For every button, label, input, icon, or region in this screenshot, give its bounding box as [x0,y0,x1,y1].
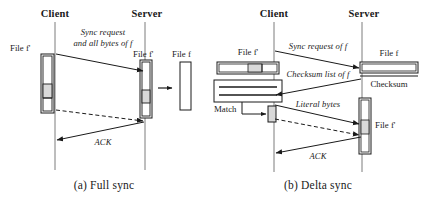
server-file-bar [360,62,418,76]
client-role-label: Client [41,9,70,20]
server-file-new-label: File f' [375,121,395,130]
msg-sync-request-label-line1: Sync request [81,28,126,37]
server-file-old-label: File f' [133,50,153,59]
client-file-block [41,54,54,113]
client-file-bar [217,62,279,74]
msg-checksum-list-label: Checksum list of f [286,70,349,79]
server-role-label: Server [132,9,163,20]
match-connector [242,102,276,122]
server-file-label: File f [380,49,399,58]
match-label: Match [214,105,236,114]
checksum-list-box [214,80,282,102]
msg-data-dashed-arrow [56,110,143,121]
server-checksum-label: Checksum [370,80,407,89]
panel-full-sync: Client Server File f' File f' File f Syn… [0,0,212,206]
server-role-label: Server [349,9,380,20]
panel-b-caption: (b) Delta sync [284,180,352,192]
panel-delta-sync: Client Server File f' Match File f Check… [212,0,424,206]
server-file-new-block [180,62,191,110]
msg-ack-label: ACK [94,138,111,147]
msg-ack-label: ACK [309,152,326,161]
msg-literal-bytes-label: Literal bytes [296,100,341,109]
msg-sync-request-arrow [56,54,143,71]
msg-sync-request-arrow [275,51,359,68]
server-file-new-block [359,98,371,154]
msg-sync-request-label-line2: and all bytes of f [73,39,132,48]
msg-checksum-list-arrow [276,79,361,95]
msg-sync-request-label: Sync request of f [289,42,347,51]
server-file-old-block [140,60,152,118]
server-file-new-label: File f [172,50,191,59]
client-role-label: Client [260,9,289,20]
panel-a-caption: (a) Full sync [74,180,135,192]
client-file-label: File f' [238,48,258,57]
figure-root: Client Server File f' File f' File f Syn… [0,0,424,206]
client-file-label: File f' [10,44,30,53]
